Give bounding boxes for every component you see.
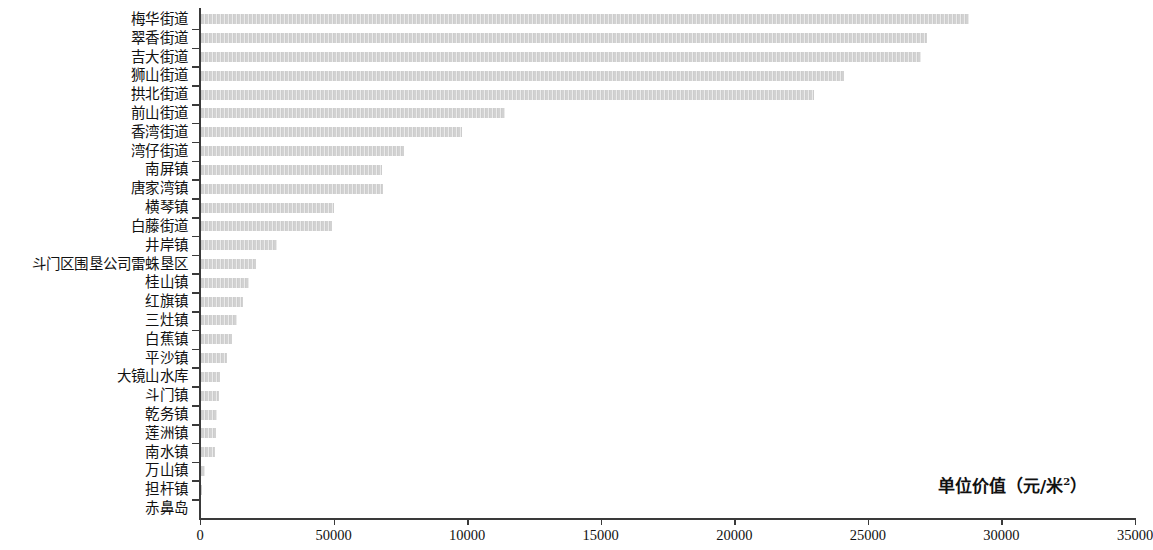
x-axis-tick: [734, 519, 735, 525]
bar: [200, 410, 217, 420]
bar: [200, 315, 237, 325]
y-axis-tick-label: 三灶镇: [0, 313, 188, 328]
y-axis-tick: [192, 198, 200, 200]
y-axis-tick: [192, 443, 200, 445]
bar: [200, 90, 814, 100]
y-axis-tick-label: 白藤街道: [0, 219, 188, 234]
y-axis-category-labels: 梅华街道翠香街道吉大街道狮山街道拱北街道前山街道香湾街道湾仔街道南屏镇唐家湾镇横…: [0, 10, 194, 518]
bar: [200, 447, 215, 457]
y-axis-tick: [192, 462, 200, 464]
y-axis-tick: [192, 292, 200, 294]
y-axis-tick: [192, 85, 200, 87]
y-axis-tick: [192, 273, 200, 275]
bar: [200, 71, 844, 81]
bar: [200, 221, 332, 231]
y-axis-tick-label: 南水镇: [0, 445, 188, 460]
bar: [200, 127, 462, 137]
bar: [200, 297, 243, 307]
y-axis-tick-label: 横琴镇: [0, 200, 188, 215]
y-axis-tick-label: 莲洲镇: [0, 426, 188, 441]
bar: [200, 278, 249, 288]
y-axis-tick-label: 平沙镇: [0, 351, 188, 366]
x-axis-tick-label: 10000: [449, 527, 485, 543]
bar: [200, 184, 383, 194]
bar: [200, 33, 927, 43]
y-axis-tick: [192, 405, 200, 407]
x-axis-tick-label: 50000: [315, 527, 351, 543]
x-axis-tick-label: 20000: [716, 527, 752, 543]
y-axis-tick-label: 担杆镇: [0, 482, 188, 497]
y-axis-tick-label: 拱北街道: [0, 87, 188, 102]
x-axis-tick: [1001, 519, 1002, 525]
y-axis-tick-label: 万山镇: [0, 463, 188, 478]
y-axis-tick-label: 赤鼻岛: [0, 501, 188, 516]
bar: [200, 428, 216, 438]
bar: [200, 165, 382, 175]
y-axis-tick-label: 白蕉镇: [0, 332, 188, 347]
x-axis-tick: [334, 519, 335, 525]
x-axis-tick-label: 35000: [1117, 527, 1153, 543]
bar: [200, 391, 219, 401]
x-axis-title: 单位价值（元/米2）: [938, 472, 1087, 496]
y-axis-tick: [192, 424, 200, 426]
y-axis-tick-label: 大镜山水库: [0, 369, 188, 384]
y-axis-tick: [192, 330, 200, 332]
bar: [200, 259, 256, 269]
y-axis-tick-label: 翠香街道: [0, 31, 188, 46]
bar: [200, 372, 220, 382]
y-axis-tick-label: 南屏镇: [0, 162, 188, 177]
bar-chart: 梅华街道翠香街道吉大街道狮山街道拱北街道前山街道香湾街道湾仔街道南屏镇唐家湾镇横…: [0, 0, 1153, 550]
bar: [200, 240, 277, 250]
y-axis-tick-label: 乾务镇: [0, 407, 188, 422]
y-axis-tick-label: 红旗镇: [0, 294, 188, 309]
bar: [200, 466, 205, 476]
y-axis-tick: [192, 66, 200, 68]
y-axis-tick: [192, 367, 200, 369]
y-axis-tick-label: 斗门区围垦公司雷蛛垦区: [0, 257, 188, 272]
x-axis-tick: [467, 519, 468, 525]
x-axis-tick: [868, 519, 869, 525]
x-axis-tick-label: 25000: [850, 527, 886, 543]
y-axis-tick: [192, 499, 200, 501]
bar: [200, 52, 921, 62]
y-axis-tick-label: 斗门镇: [0, 388, 188, 403]
y-axis-tick: [192, 48, 200, 50]
y-axis-tick: [192, 29, 200, 31]
y-axis-tick-label: 唐家湾镇: [0, 181, 188, 196]
bar: [200, 353, 227, 363]
x-axis-tick: [601, 519, 602, 525]
y-axis-tick-label: 狮山街道: [0, 68, 188, 83]
x-axis-tick-label: 15000: [583, 527, 619, 543]
y-axis-tick: [192, 255, 200, 257]
y-axis-tick: [192, 142, 200, 144]
y-axis-tick: [192, 480, 200, 482]
y-axis-tick: [192, 349, 200, 351]
y-axis-tick: [192, 217, 200, 219]
bar: [200, 14, 969, 24]
y-axis-tick-label: 井岸镇: [0, 238, 188, 253]
y-axis-tick-label: 前山街道: [0, 106, 188, 121]
y-axis-tick: [192, 236, 200, 238]
plot-area: [200, 10, 1135, 518]
x-axis-line: [199, 518, 1136, 520]
y-axis-tick: [192, 104, 200, 106]
y-axis-tick: [192, 179, 200, 181]
y-axis-tick-label: 香湾街道: [0, 125, 188, 140]
y-axis-tick: [192, 386, 200, 388]
bar: [200, 108, 505, 118]
bar: [200, 334, 232, 344]
y-axis-tick: [192, 311, 200, 313]
y-axis-tick-label: 湾仔街道: [0, 144, 188, 159]
bar: [200, 203, 334, 213]
x-axis-tick: [200, 519, 201, 525]
y-axis-tick: [192, 123, 200, 125]
y-axis-tick: [192, 161, 200, 163]
x-axis-tick: [1135, 519, 1136, 525]
y-axis-tick-label: 梅华街道: [0, 12, 188, 27]
x-axis-tick-label: 0: [196, 527, 203, 543]
x-axis-tick-label: 30000: [983, 527, 1019, 543]
bar: [200, 146, 404, 156]
y-axis-tick-label: 桂山镇: [0, 275, 188, 290]
y-axis-tick-label: 吉大街道: [0, 50, 188, 65]
